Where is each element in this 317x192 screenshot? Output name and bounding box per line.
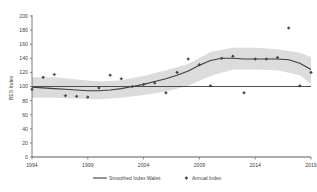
- data-point: [165, 91, 168, 94]
- data-point: [120, 77, 123, 80]
- x-tick-label: 1994: [26, 162, 38, 168]
- y-tick-label: 140: [19, 55, 28, 61]
- y-axis-title: BES Index: [8, 75, 14, 100]
- x-tick-label: 2004: [138, 162, 150, 168]
- x-tick-label: 2009: [194, 162, 206, 168]
- x-tick-label: 1999: [82, 162, 94, 168]
- y-tick-label: 60: [22, 112, 28, 118]
- legend-label-annual: Annual Index: [192, 175, 222, 181]
- chart-plot-area: 020406080100120140160180200 199419992004…: [0, 0, 317, 192]
- data-point: [287, 27, 290, 30]
- y-tick-label: 20: [22, 140, 28, 146]
- data-point: [109, 74, 112, 77]
- chart-legend: Smoothed Index Wales Annual Index: [93, 175, 222, 181]
- x-axis-ticks: 199419992004200920142019: [26, 157, 317, 168]
- data-point: [187, 58, 190, 61]
- legend-diamond-swatch: [185, 176, 188, 179]
- y-axis-ticks: 020406080100120140160180200: [19, 13, 32, 160]
- y-tick-label: 80: [22, 98, 28, 104]
- y-tick-label: 180: [19, 27, 28, 33]
- chart-container: 020406080100120140160180200 199419992004…: [0, 0, 317, 192]
- y-tick-label: 100: [19, 83, 28, 89]
- x-tick-label: 2019: [305, 162, 317, 168]
- y-tick-label: 160: [19, 41, 28, 47]
- x-tick-label: 2014: [249, 162, 261, 168]
- y-tick-label: 120: [19, 69, 28, 75]
- legend-label-smoothed: Smoothed Index Wales: [109, 175, 161, 181]
- y-tick-label: 40: [22, 126, 28, 132]
- data-point: [53, 73, 56, 76]
- data-point: [243, 91, 246, 94]
- y-tick-label: 200: [19, 13, 28, 19]
- y-tick-label: 0: [25, 154, 28, 160]
- confidence-band: [32, 48, 311, 99]
